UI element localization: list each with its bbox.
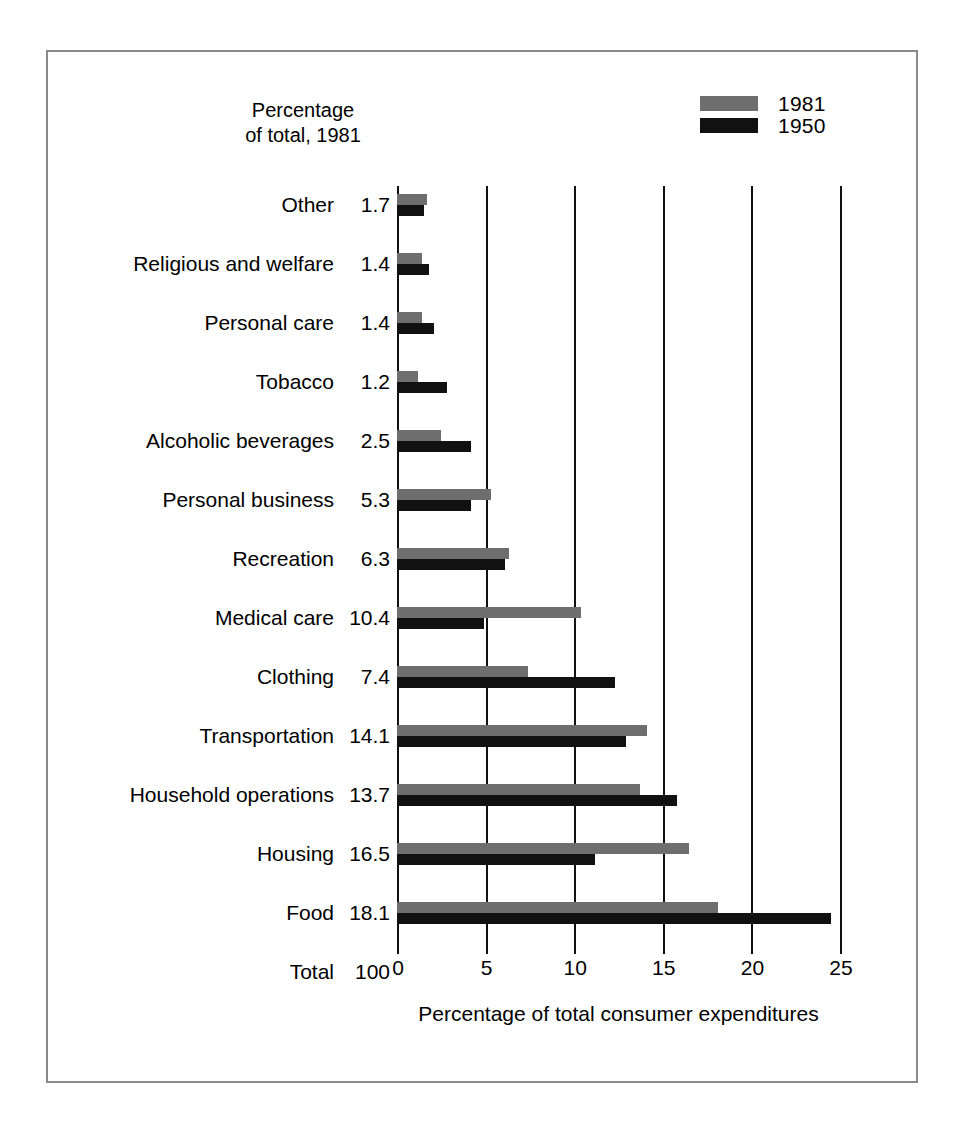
x-tick-20 bbox=[751, 926, 753, 954]
category-label-row: Medical care10.4 bbox=[60, 607, 390, 629]
bar-1950-religious-and-welfare bbox=[397, 264, 429, 275]
category-label-row: Total100 bbox=[60, 961, 390, 983]
category-name: Total bbox=[290, 960, 334, 984]
bar-1981-alcoholic-beverages bbox=[397, 430, 441, 441]
bar-1950-transportation bbox=[397, 736, 626, 747]
category-label-row: Transportation14.1 bbox=[60, 725, 390, 747]
category-name: Household operations bbox=[130, 783, 334, 807]
category-label-column: Other1.7Religious and welfare1.4Personal… bbox=[60, 186, 390, 946]
legend-entry-1981: 1981 bbox=[700, 92, 880, 114]
bar-1981-clothing bbox=[397, 666, 528, 677]
bar-1950-housing bbox=[397, 854, 595, 865]
category-label-row: Food18.1 bbox=[60, 902, 390, 924]
bar-1950-recreation bbox=[397, 559, 505, 570]
x-axis-ticks bbox=[397, 926, 840, 956]
legend-label-1950: 1950 bbox=[778, 115, 826, 136]
bar-1950-personal-care bbox=[397, 323, 434, 334]
bar-1981-housing bbox=[397, 843, 689, 854]
bar-row bbox=[397, 725, 840, 747]
bar-1981-household-operations bbox=[397, 784, 640, 795]
legend-label-1981: 1981 bbox=[778, 93, 826, 114]
category-name: Food bbox=[286, 901, 334, 925]
bar-1981-personal-business bbox=[397, 489, 491, 500]
x-axis-title: Percentage of total consumer expenditure… bbox=[397, 1002, 840, 1026]
category-name: Personal care bbox=[204, 311, 334, 335]
bar-row bbox=[397, 902, 840, 924]
x-tick-label-5: 5 bbox=[481, 956, 493, 980]
x-tick-5 bbox=[486, 926, 488, 954]
category-label-row: Personal business5.3 bbox=[60, 489, 390, 511]
x-tick-label-10: 10 bbox=[564, 956, 587, 980]
bar-1950-food bbox=[397, 913, 831, 924]
bar-1950-medical-care bbox=[397, 618, 484, 629]
category-value-1981: 16.5 bbox=[334, 842, 390, 866]
bar-1950-clothing bbox=[397, 677, 615, 688]
category-value-1981: 1.7 bbox=[334, 193, 390, 217]
x-tick-10 bbox=[574, 926, 576, 954]
bar-1981-medical-care bbox=[397, 607, 581, 618]
x-tick-label-25: 25 bbox=[829, 956, 852, 980]
bar-1981-religious-and-welfare bbox=[397, 253, 422, 264]
bar-row bbox=[397, 489, 840, 511]
category-value-1981: 1.2 bbox=[334, 370, 390, 394]
bar-1950-tobacco bbox=[397, 382, 447, 393]
bar-1950-other bbox=[397, 205, 424, 216]
chart-legend: 1981 1950 bbox=[700, 92, 880, 136]
x-tick-label-15: 15 bbox=[652, 956, 675, 980]
category-name: Tobacco bbox=[256, 370, 334, 394]
category-value-1981: 14.1 bbox=[334, 724, 390, 748]
category-label-row: Personal care1.4 bbox=[60, 312, 390, 334]
category-name: Housing bbox=[257, 842, 334, 866]
category-name: Personal business bbox=[162, 488, 334, 512]
category-label-row: Housing16.5 bbox=[60, 843, 390, 865]
x-tick-label-0: 0 bbox=[392, 956, 404, 980]
category-value-1981: 100 bbox=[334, 960, 390, 984]
category-value-1981: 10.4 bbox=[334, 606, 390, 630]
x-tick-25 bbox=[840, 926, 842, 954]
category-name: Other bbox=[281, 193, 334, 217]
category-name: Clothing bbox=[257, 665, 334, 689]
category-value-1981: 13.7 bbox=[334, 783, 390, 807]
category-label-row: Other1.7 bbox=[60, 194, 390, 216]
legend-swatch-1950-icon bbox=[700, 118, 758, 133]
category-value-1981: 1.4 bbox=[334, 311, 390, 335]
bar-1981-transportation bbox=[397, 725, 647, 736]
category-label-row: Tobacco1.2 bbox=[60, 371, 390, 393]
legend-entry-1950: 1950 bbox=[700, 114, 880, 136]
bar-1950-household-operations bbox=[397, 795, 677, 806]
bar-row bbox=[397, 371, 840, 393]
plot-area bbox=[397, 186, 840, 926]
bar-1981-food bbox=[397, 902, 718, 913]
category-name: Recreation bbox=[232, 547, 334, 571]
bar-row bbox=[397, 194, 840, 216]
bar-row bbox=[397, 607, 840, 629]
bar-series-group bbox=[397, 186, 840, 926]
category-value-1981: 7.4 bbox=[334, 665, 390, 689]
category-name: Religious and welfare bbox=[133, 252, 334, 276]
bar-row bbox=[397, 312, 840, 334]
bar-row bbox=[397, 548, 840, 570]
bar-row bbox=[397, 843, 840, 865]
gridline-25 bbox=[840, 186, 842, 926]
bar-1981-recreation bbox=[397, 548, 509, 559]
x-tick-label-20: 20 bbox=[741, 956, 764, 980]
category-value-1981: 2.5 bbox=[334, 429, 390, 453]
bar-row bbox=[397, 666, 840, 688]
x-axis-tick-labels: 0510152025 bbox=[397, 956, 840, 984]
category-name: Transportation bbox=[199, 724, 334, 748]
legend-swatch-1981-icon bbox=[700, 96, 758, 111]
x-tick-15 bbox=[663, 926, 665, 954]
category-label-row: Alcoholic beverages2.5 bbox=[60, 430, 390, 452]
category-name: Alcoholic beverages bbox=[146, 429, 334, 453]
bar-1950-personal-business bbox=[397, 500, 471, 511]
category-name: Medical care bbox=[215, 606, 334, 630]
category-value-1981: 5.3 bbox=[334, 488, 390, 512]
category-label-row: Religious and welfare1.4 bbox=[60, 253, 390, 275]
category-value-1981: 6.3 bbox=[334, 547, 390, 571]
y-axis-header: Percentage of total, 1981 bbox=[218, 98, 388, 148]
bar-row bbox=[397, 430, 840, 452]
bar-1981-personal-care bbox=[397, 312, 422, 323]
bar-row bbox=[397, 253, 840, 275]
bar-row bbox=[397, 784, 840, 806]
category-value-1981: 1.4 bbox=[334, 252, 390, 276]
